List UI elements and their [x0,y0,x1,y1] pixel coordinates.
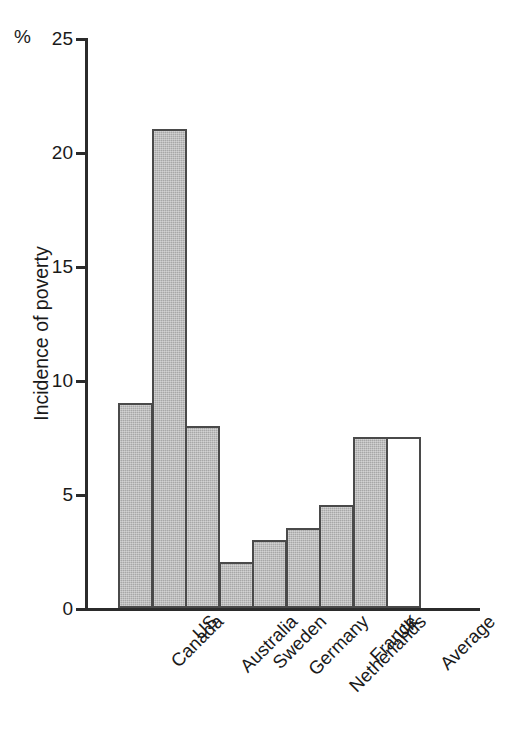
y-tick-mark [76,608,86,611]
poverty-incidence-bar-chart: % Incidence of poverty 0510152025 Canada… [0,0,507,748]
bar-netherlands [286,528,321,608]
bar-canada [118,403,153,608]
x-axis-line [85,608,480,611]
y-axis-line [85,38,88,609]
y-tick-label: 25 [52,29,73,48]
y-tick-mark [76,380,86,383]
y-tick-mark [76,266,86,269]
y-tick-mark [76,494,86,497]
bar-sweden [219,562,254,608]
x-axis-tick-labels: CanadaUSAustraliaSwedenGermanyNetherland… [118,612,458,742]
bar-australia [185,426,220,608]
bar-us [152,129,187,608]
y-tick-label: 5 [62,485,73,504]
plot-area: 0510152025 [85,38,480,608]
y-tick-mark [76,152,86,155]
bar-average [386,437,421,608]
y-tick-label: 20 [52,143,73,162]
y-axis-title: Incidence of poverty [30,169,53,499]
y-axis-unit-label: % [14,26,31,48]
y-tick-label: 10 [52,371,73,390]
bar-france [319,505,354,608]
bar-series [118,38,420,608]
bar-germany [252,540,287,608]
y-tick-label: 0 [62,599,73,618]
bar-uk [353,437,388,608]
x-tick-label-average: Average [437,612,499,674]
y-tick-mark [76,38,86,41]
x-tick-label-text: Average [437,612,499,674]
y-tick-label: 15 [52,257,73,276]
